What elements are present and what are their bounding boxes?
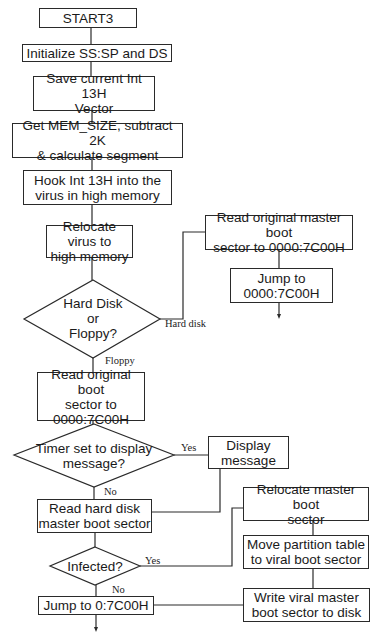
start-node: START3 bbox=[39, 8, 137, 28]
timer-yes-label: Yes bbox=[181, 442, 196, 453]
disk-decision: Hard Disk or Floppy? bbox=[50, 296, 136, 341]
timer-decision: Timer set to display message? bbox=[30, 441, 158, 471]
hook-node: Hook Int 13H into the virus in high memo… bbox=[23, 170, 172, 205]
display-message-node: Display message bbox=[208, 436, 289, 469]
infected-no-label: No bbox=[112, 584, 125, 595]
save-vector-node: Save current Int 13H Vector bbox=[33, 76, 155, 111]
init-node: Initialize SS:SP and DS bbox=[22, 44, 172, 62]
timer-no-label: No bbox=[104, 486, 117, 497]
jump-0-node: Jump to 0:7C00H bbox=[38, 596, 154, 615]
relocate-master-node: Relocate master boot sector bbox=[243, 487, 369, 521]
jump-0000-node: Jump to 0000:7C00H bbox=[230, 268, 333, 303]
floppy-label: Floppy bbox=[105, 355, 135, 366]
write-viral-node: Write viral master boot sector to disk bbox=[243, 588, 370, 622]
hard-disk-label: Hard disk bbox=[165, 318, 206, 329]
infected-yes-label: Yes bbox=[145, 555, 160, 566]
relocate-virus-node: Relocate virus to high memory bbox=[46, 225, 133, 258]
infected-decision: Infected? bbox=[60, 559, 130, 574]
read-master-orig-node: Read original master boot sector to 0000… bbox=[205, 215, 353, 250]
read-boot-orig-node: Read original boot sector to 0000:7C00H bbox=[37, 372, 145, 421]
get-mem-node: Get MEM_SIZE, subtract 2K & calculate se… bbox=[12, 123, 183, 158]
move-partition-node: Move partition table to viral boot secto… bbox=[243, 535, 369, 569]
read-hd-master-node: Read hard disk master boot sector bbox=[37, 499, 152, 533]
